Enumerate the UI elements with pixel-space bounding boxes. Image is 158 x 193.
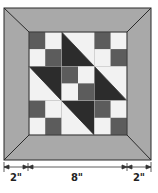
patch-dark (45, 49, 61, 66)
dimension-label-right: 2" (133, 172, 145, 183)
arrowhead-icon (127, 165, 132, 169)
patch-light (29, 49, 45, 66)
patch-dark (94, 32, 110, 49)
patch-light (111, 32, 127, 49)
dimension-line (4, 162, 151, 172)
arrowhead-icon (4, 165, 9, 169)
patch-light (29, 118, 45, 135)
block-unit-hst-dark-upper-right (62, 101, 95, 135)
patch-light (94, 118, 110, 135)
block-unit-hst-dark-upper-right (29, 66, 62, 100)
patch-dark (45, 118, 61, 135)
patch-dark (29, 32, 45, 49)
patch-dark (111, 118, 127, 135)
center-block (29, 32, 127, 135)
patch-dark (78, 84, 94, 101)
patch-dark (62, 66, 78, 83)
block-unit-four-patch (62, 66, 95, 100)
patch-dark (94, 101, 110, 118)
patch-dark (29, 101, 45, 118)
patch-light (45, 101, 61, 118)
patch-light (78, 66, 94, 83)
block-unit-four-patch (29, 32, 62, 66)
patch-light (94, 49, 110, 66)
block-unit-four-patch (29, 101, 62, 135)
block-unit-hst-dark-lower-left (94, 66, 127, 100)
block-unit-hst-dark-lower-left (62, 32, 95, 66)
patch-light (62, 84, 78, 101)
arrowhead-icon (28, 165, 33, 169)
dimension-label-center: 8" (71, 172, 83, 183)
patch-light (111, 101, 127, 118)
dimension-label-left: 2" (10, 172, 22, 183)
patch-light (45, 32, 61, 49)
block-unit-four-patch (94, 32, 127, 66)
arrowhead-icon (146, 165, 151, 169)
quilt-diagram: 2" 8" 2" (0, 0, 158, 193)
block-unit-four-patch (94, 101, 127, 135)
patch-dark (111, 49, 127, 66)
